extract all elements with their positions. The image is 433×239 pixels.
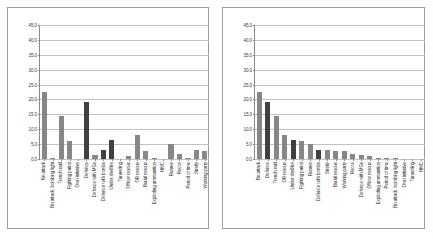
x-label-slot: Period of time	[184, 162, 193, 230]
y-tick-mark	[38, 159, 40, 160]
x-label-slot: Burial rescue	[141, 162, 150, 230]
bar	[282, 135, 287, 159]
y-tick-label: 45.0	[28, 23, 37, 28]
bar-slot	[133, 25, 141, 159]
y-tick-label: 35.0	[28, 52, 37, 57]
x-tick-label: Tunnelling	[117, 162, 122, 182]
bar-slot	[306, 25, 315, 159]
x-tick-label: Stretly	[324, 162, 329, 174]
x-tick-mark	[205, 159, 206, 161]
x-label-slot: Defence with MGs	[357, 162, 366, 230]
bar-slot	[340, 25, 349, 159]
bar	[109, 140, 114, 159]
x-label-slot: Exploding ammunition	[374, 162, 383, 230]
bar	[202, 151, 207, 159]
x-tick-label: Fighting patrol	[66, 162, 71, 189]
x-label-slot: Bn attack, bombing light	[48, 162, 57, 230]
x-axis-labels-left: Bn attackBn attack, bombing lightTrench …	[39, 162, 209, 230]
bar-slot	[281, 25, 290, 159]
x-tick-mark	[327, 159, 328, 161]
x-tick-mark	[404, 159, 405, 161]
bar-slot	[408, 25, 417, 159]
bar-slot	[99, 25, 107, 159]
chart-panel-unsorted: 45.040.035.030.025.020.015.010.05.00.0 B…	[0, 0, 216, 239]
x-tick-label: Officer rescue	[126, 162, 131, 189]
x-tick-label: OR rescue	[281, 162, 286, 183]
x-label-slot: Working party	[339, 162, 348, 230]
chart-panel-group: 45.040.035.030.025.020.015.010.05.00.0 B…	[0, 0, 433, 239]
x-label-slot: Officer rescue	[124, 162, 133, 230]
x-label-slot: Own initiative	[399, 162, 408, 230]
x-tick-label: Exploding ammunition	[375, 162, 380, 204]
x-label-slot: Stretly	[322, 162, 331, 230]
x-tick-mark	[154, 159, 155, 161]
x-label-slot: Under shellfire	[288, 162, 297, 230]
x-label-slot: Fighting patrol	[65, 162, 74, 230]
x-tick-mark	[336, 159, 337, 161]
bar-slot	[116, 25, 124, 159]
bar	[325, 150, 330, 159]
x-tick-mark	[361, 159, 362, 161]
plot-area-right: 45.040.035.030.025.020.015.010.05.00.0	[254, 25, 425, 160]
bar-slot	[357, 25, 366, 159]
x-tick-label: Fighting patrol	[299, 162, 304, 189]
bar-slot	[289, 25, 298, 159]
y-tick-label: 20.0	[28, 97, 37, 102]
x-label-slot: Bn attack	[39, 162, 48, 230]
x-tick-mark	[378, 159, 379, 161]
x-tick-label: OR rescue	[134, 162, 139, 183]
x-label-slot: Defence	[263, 162, 272, 230]
bar-slot	[298, 25, 307, 159]
bar-slot	[48, 25, 56, 159]
y-tick-label: 40.0	[28, 37, 37, 42]
x-tick-label: Period of time	[185, 162, 190, 188]
bar	[342, 151, 347, 159]
bar	[135, 135, 140, 159]
x-tick-mark	[353, 159, 354, 161]
bar-slot	[366, 25, 375, 159]
x-tick-label: Own initiative	[401, 162, 406, 187]
x-tick-mark	[196, 159, 197, 161]
bar-slot	[108, 25, 116, 159]
x-tick-label: Working party	[202, 162, 207, 188]
x-label-slot: Tunnelling	[116, 162, 125, 230]
bar-slot	[184, 25, 192, 159]
x-label-slot: HMC	[158, 162, 167, 230]
x-tick-mark	[146, 159, 147, 161]
x-tick-mark	[344, 159, 345, 161]
plot-area-left: 45.040.035.030.025.020.015.010.05.00.0	[39, 25, 209, 160]
bar-slot	[332, 25, 341, 159]
x-tick-label: Own initiative	[75, 162, 80, 187]
bar-slot	[192, 25, 200, 159]
gridline: 0.0	[255, 159, 425, 160]
bar-slot	[150, 25, 158, 159]
x-label-slot: Officer rescue	[365, 162, 374, 230]
y-tick-label: 45.0	[243, 23, 252, 28]
y-tick-label: 5.0	[246, 142, 252, 147]
x-tick-label: Defence	[264, 162, 269, 178]
x-tick-label: Stretly	[194, 162, 199, 174]
y-tick-label: 15.0	[243, 112, 252, 117]
x-label-slot: Stretly	[192, 162, 201, 230]
bar-slot	[391, 25, 400, 159]
y-tick-label: 35.0	[243, 52, 252, 57]
x-tick-label: Defence	[83, 162, 88, 178]
x-label-slot: Runner	[167, 162, 176, 230]
bar-slot	[272, 25, 281, 159]
gridline: 0.0	[40, 159, 209, 160]
bar-slot	[175, 25, 183, 159]
x-label-slot: Burial rescue	[331, 162, 340, 230]
x-tick-mark	[259, 159, 260, 161]
bar-slot	[323, 25, 332, 159]
x-tick-label: HMC	[418, 162, 423, 172]
x-tick-label: Under shellfire	[109, 162, 114, 190]
x-tick-label: Working party	[341, 162, 346, 188]
x-tick-mark	[319, 159, 320, 161]
x-tick-label: Defence with bombs	[316, 162, 321, 201]
panel-border: 45.040.035.030.025.020.015.010.05.00.0 B…	[7, 7, 209, 229]
bar	[333, 151, 338, 159]
x-label-slot: Own initiative	[73, 162, 82, 230]
x-tick-label: HMC	[160, 162, 165, 172]
x-tick-mark	[179, 159, 180, 161]
bar-slot	[264, 25, 273, 159]
